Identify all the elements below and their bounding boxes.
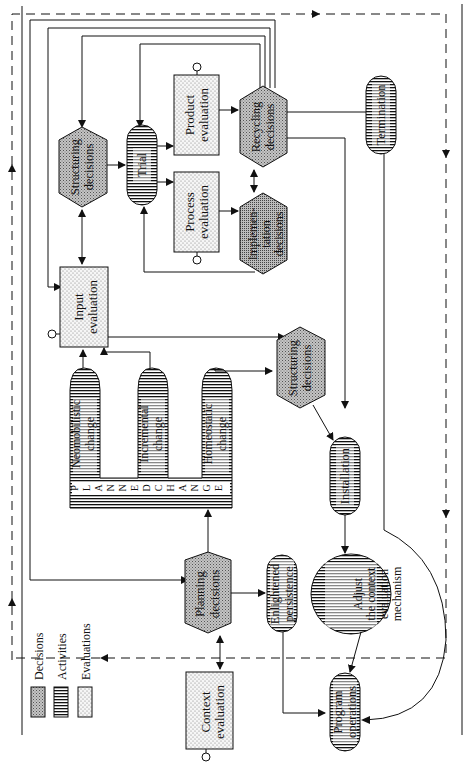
termination-to-program-operations-line [365,154,446,720]
label: Installation [338,447,352,504]
label: tation [259,220,273,247]
label: evaluation [85,279,100,334]
loop-arrow-top [312,10,320,18]
label: decisions [272,211,286,256]
node-implementation-decisions: Implemen- tation decisions [240,193,287,274]
loop-arrow-right-2 [442,510,450,518]
node-program-operations: Program operations [330,673,360,751]
svg-text:L: L [81,485,92,491]
loop-arrow-right-1 [442,150,450,158]
loop-arrow-left-1 [8,164,16,172]
planned-change-letters: P L A N N E D C H A N G E [69,484,224,492]
label: Product [182,94,197,135]
node-product-evaluation: Product evaluation [174,63,219,155]
node-structuring-decisions-lower: Structuring decisions [277,327,325,408]
label: Program [331,690,345,733]
svg-text:N: N [105,484,116,491]
node-context-evaluation: Context evaluation [186,672,233,761]
label: Process [182,192,197,232]
legend-label-activities: Activities [55,633,69,680]
svg-text:N: N [117,484,128,491]
svg-text:A: A [93,484,104,492]
label: decisions [300,345,314,392]
node-installation: Installation [330,437,360,515]
label: operations [345,686,359,738]
label: Trial [135,153,149,177]
label: Recycling [249,101,263,152]
svg-text:E: E [129,485,140,491]
label: evaluation [212,684,227,739]
label: Incremental [137,405,151,463]
change-arms-labels: Neomobilistic change Incremental change … [69,398,229,474]
label: decisions [207,570,222,618]
legend-label-evaluations: Evaluations [79,623,93,680]
label: Neomobilistic [69,400,83,468]
node-trial: Trial [127,125,157,205]
svg-text:D: D [141,484,152,491]
node-process-evaluation: Process evaluation [174,172,219,264]
legend: Decisions Activities Evaluations [31,623,93,717]
node-enlightened-persistence: Enlightened persistence [267,555,297,632]
node-adjust-context-evaluation-mechanism: Adjust the context evaluation mechanism [311,554,404,634]
label: Context [198,691,213,733]
label: mechanism [390,566,404,621]
label: change [83,417,97,451]
node-structuring-decisions-upper: Structuring decisions [59,127,107,207]
label: the context [364,567,378,621]
legend-swatch-decisions [31,687,45,717]
label: persistence [282,566,296,622]
svg-text:P: P [69,485,80,491]
label: Structuring [68,138,82,195]
label: Homeostatic [201,404,215,465]
legend-label-decisions: Decisions [32,632,46,680]
label: evaluation [196,184,211,239]
label: Adjust [351,577,365,610]
node-termination: Termination [366,76,396,154]
label: Input [71,293,86,321]
node-recycling-decisions: Recycling decisions [240,86,287,167]
node-input-evaluation: Input evaluation [48,267,108,347]
label: evaluation [377,569,391,619]
label: Structuring [286,339,300,396]
svg-text:C: C [153,484,164,491]
svg-text:A: A [177,484,188,492]
legend-swatch-activities [54,687,68,717]
svg-text:E: E [213,485,224,491]
svg-text:H: H [165,484,176,491]
loop-arrow-bottom [100,654,108,662]
loop-arrow-left-2 [8,598,16,606]
svg-text:G: G [201,484,212,491]
label: evaluation [196,87,211,142]
label: decisions [263,104,277,151]
label: change [151,417,165,451]
label: Termination [374,84,388,146]
planned-change-flowchart: Decisions Activities Evaluations Context… [0,0,473,770]
label: change [215,417,229,451]
legend-swatch-evaluations [78,687,92,717]
label: decisions [82,144,96,191]
label: Planning [192,570,207,617]
node-planning-decisions: Planning decisions [185,552,231,633]
label: Implemen- [246,208,260,261]
label: Enlightened [268,563,282,624]
svg-text:N: N [189,484,200,491]
